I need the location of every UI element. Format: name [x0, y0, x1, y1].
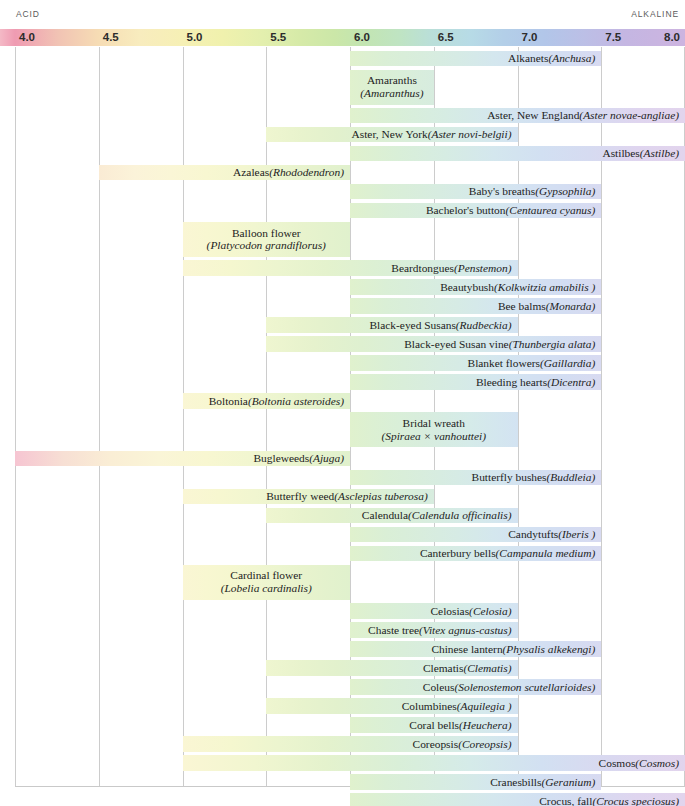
plant-common-name: Aster, New England	[487, 109, 579, 122]
plant-scientific-name: (Crocus speciosus)	[592, 795, 679, 806]
plant-name-label: Butterfly weed (Asclepias tuberosa)	[183, 489, 434, 505]
plant-common-name: Black-eyed Susans	[369, 319, 455, 332]
plant-name-label: Clematis (Clematis)	[266, 660, 517, 676]
alkaline-axis-label: ALKALINE	[631, 9, 679, 19]
table-row[interactable]: Butterfly weed (Asclepias tuberosa)	[0, 489, 685, 505]
table-row[interactable]: Chinese lantern (Physalis alkekengi)	[0, 641, 685, 657]
table-row[interactable]: Coral bells (Heuchera)	[0, 717, 685, 733]
plant-common-name: Coral bells	[409, 719, 459, 732]
plant-scientific-name: (Penstemon)	[454, 262, 512, 275]
table-row[interactable]: Coleus (Solenostemon scutellarioides)	[0, 679, 685, 695]
table-row[interactable]: Bugleweeds (Ajuga)	[0, 451, 685, 467]
plant-name-label: Columbines (Aquilegia )	[266, 698, 517, 714]
plant-name-label: Beardtongues (Penstemon)	[183, 260, 518, 276]
plant-common-name: Bridal wreath	[403, 417, 465, 430]
table-row[interactable]: Clematis (Clematis)	[0, 660, 685, 676]
plant-common-name: Cosmos	[599, 757, 636, 770]
plant-common-name: Azaleas	[233, 166, 269, 179]
axis-tick-6-0: 6.0	[354, 31, 370, 43]
plant-name-label: Bleeding hearts (Dicentra)	[350, 374, 601, 390]
table-row[interactable]: Black-eyed Susans (Rudbeckia)	[0, 317, 685, 333]
plant-name-label: Coreopsis (Coreopsis)	[183, 736, 518, 752]
plant-common-name: Aster, New York	[352, 128, 428, 141]
table-row[interactable]: Calendula (Calendula officinalis)	[0, 508, 685, 524]
plant-common-name: Alkanets	[508, 52, 549, 65]
table-row[interactable]: Astilbes (Astilbe)	[0, 146, 685, 162]
plant-scientific-name: (Solenostemon scutellarioides)	[454, 681, 595, 694]
plant-common-name: Calendula	[362, 509, 408, 522]
plant-name-label: Cardinal flower(Lobelia cardinalis)	[183, 565, 351, 600]
plant-scientific-name: (Centaurea cyanus)	[506, 204, 596, 217]
plant-scientific-name: (Physalis alkekengi)	[503, 643, 596, 656]
plant-common-name: Canterbury bells	[420, 547, 496, 560]
plant-scientific-name: (Cosmos)	[635, 757, 679, 770]
plant-scientific-name: (Ajuga)	[309, 452, 344, 465]
table-row[interactable]: Celosias (Celosia)	[0, 603, 685, 619]
table-row[interactable]: Baby's breaths (Gypsophila)	[0, 184, 685, 200]
table-row[interactable]: Crocus, fall (Crocus speciosus)	[0, 793, 685, 806]
plant-common-name: Butterfly weed	[266, 490, 334, 503]
plant-name-label: Aster, New York (Aster novi-belgii)	[266, 127, 517, 143]
plant-scientific-name: (Aster novi-belgii)	[428, 128, 512, 141]
table-row[interactable]: Canterbury bells (Campanula medium)	[0, 546, 685, 562]
plant-scientific-name: (Thunbergia alata)	[509, 338, 596, 351]
plant-name-label: Black-eyed Susans (Rudbeckia)	[266, 317, 517, 333]
plant-name-label: Alkanets (Anchusa)	[350, 51, 601, 67]
axis-tick-4-5: 4.5	[103, 31, 119, 43]
table-row[interactable]: Beautybush (Kolkwitzia amabilis )	[0, 279, 685, 295]
plant-scientific-name: (Calendula officinalis)	[408, 509, 511, 522]
plant-scientific-name: (Aquilegia )	[457, 700, 512, 713]
table-row[interactable]: Amaranths(Amaranthus)	[0, 70, 685, 105]
plant-scientific-name: (Lobelia cardinalis)	[221, 582, 312, 595]
plant-name-label: Butterfly bushes (Buddleia)	[350, 470, 601, 486]
plant-scientific-name: (Anchusa)	[548, 52, 595, 65]
table-row[interactable]: Cosmos (Cosmos)	[0, 755, 685, 771]
plant-scientific-name: (Dicentra)	[547, 376, 595, 389]
plant-common-name: Black-eyed Susan vine	[404, 338, 508, 351]
plant-common-name: Coleus	[423, 681, 455, 694]
plant-scientific-name: (Coreopsis)	[458, 738, 511, 751]
table-row[interactable]: Bachelor's button (Centaurea cyanus)	[0, 203, 685, 219]
plant-name-label: Crocus, fall (Crocus speciosus)	[350, 793, 685, 806]
table-row[interactable]: Bee balms (Monarda)	[0, 298, 685, 314]
plant-scientific-name: (Boltonia asteroides)	[248, 395, 344, 408]
table-row[interactable]: Aster, New York (Aster novi-belgii)	[0, 127, 685, 143]
table-row[interactable]: Boltonia (Boltonia asteroides)	[0, 393, 685, 409]
plant-name-label: Coleus (Solenostemon scutellarioides)	[350, 679, 601, 695]
ph-range-chart: ACID ALKALINE 4.04.55.05.56.06.57.07.58.…	[0, 0, 685, 806]
table-row[interactable]: Balloon flower(Platycodon grandiflorus)	[0, 222, 685, 257]
table-row[interactable]: Azaleas (Rhododendron)	[0, 165, 685, 181]
table-row[interactable]: Chaste tree (Vitex agnus-castus)	[0, 622, 685, 638]
plant-name-label: Baby's breaths (Gypsophila)	[350, 184, 601, 200]
plant-name-label: Boltonia (Boltonia asteroides)	[183, 393, 351, 409]
plant-name-label: Beautybush (Kolkwitzia amabilis )	[350, 279, 601, 295]
table-row[interactable]: Aster, New England (Aster novae-angliae)	[0, 108, 685, 124]
plant-rows-container: Alkanets (Anchusa)Amaranths(Amaranthus)A…	[0, 47, 685, 787]
table-row[interactable]: Bleeding hearts (Dicentra)	[0, 374, 685, 390]
plant-scientific-name: (Aster novae-angliae)	[579, 109, 679, 122]
table-row[interactable]: Cranesbills (Geranium)	[0, 774, 685, 790]
plant-common-name: Chinese lantern	[431, 643, 502, 656]
table-row[interactable]: Black-eyed Susan vine (Thunbergia alata)	[0, 336, 685, 352]
plant-name-label: Calendula (Calendula officinalis)	[266, 508, 517, 524]
table-row[interactable]: Columbines (Aquilegia )	[0, 698, 685, 714]
plant-name-label: Azaleas (Rhododendron)	[99, 165, 350, 181]
plant-common-name: Clematis	[423, 662, 464, 675]
plant-scientific-name: (Rhododendron)	[269, 166, 344, 179]
plant-common-name: Cardinal flower	[230, 569, 302, 582]
table-row[interactable]: Candytufts (Iberis )	[0, 527, 685, 543]
table-row[interactable]: Alkanets (Anchusa)	[0, 51, 685, 67]
plant-name-label: Bridal wreath(Spiraea × vanhouttei)	[350, 412, 518, 447]
table-row[interactable]: Beardtongues (Penstemon)	[0, 260, 685, 276]
axis-tick-5-5: 5.5	[270, 31, 286, 43]
plant-name-label: Aster, New England (Aster novae-angliae)	[350, 108, 685, 124]
plant-name-label: Canterbury bells (Campanula medium)	[350, 546, 601, 562]
table-row[interactable]: Blanket flowers (Gaillardia)	[0, 355, 685, 371]
plant-scientific-name: (Spiraea × vanhouttei)	[382, 430, 487, 443]
plant-common-name: Beardtongues	[391, 262, 454, 275]
table-row[interactable]: Cardinal flower(Lobelia cardinalis)	[0, 565, 685, 600]
plant-scientific-name: (Vitex agnus-castus)	[419, 624, 511, 637]
table-row[interactable]: Coreopsis (Coreopsis)	[0, 736, 685, 752]
table-row[interactable]: Butterfly bushes (Buddleia)	[0, 470, 685, 486]
table-row[interactable]: Bridal wreath(Spiraea × vanhouttei)	[0, 412, 685, 447]
